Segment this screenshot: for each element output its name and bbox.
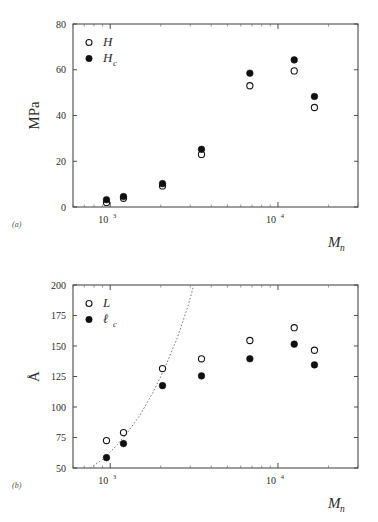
y-tick-label: 20 (56, 156, 66, 167)
data-point-L (120, 430, 126, 436)
data-point-lc (247, 356, 254, 363)
legend-label-subscript: c (113, 58, 117, 68)
y-axis-title: MPa (26, 101, 42, 130)
panel-a: 020406080103104MPaMnHHc(a) (12, 19, 358, 254)
x-axis-title: Mn (327, 495, 345, 514)
data-point-lc (291, 341, 298, 348)
x-tick-label: 104 (266, 212, 285, 225)
data-point-lc (159, 382, 166, 389)
data-point-Hc (291, 57, 298, 64)
plot-frame (73, 24, 358, 207)
legend-label: ℓ (103, 311, 109, 326)
data-point-H (291, 68, 297, 74)
series-lc (103, 341, 318, 461)
legend-label-subscript: c (113, 319, 117, 329)
data-point-H (247, 83, 253, 89)
legend-marker-H (86, 40, 92, 46)
y-tick-label: 125 (51, 371, 66, 382)
data-point-L (159, 365, 165, 371)
data-point-Hc (311, 93, 318, 100)
y-tick-label: 175 (51, 310, 66, 321)
y-tick-label: 60 (56, 64, 66, 75)
x-tick-exponent: 4 (281, 473, 285, 480)
x-axis-title: Mn (327, 234, 345, 253)
y-tick-label: 40 (56, 110, 66, 121)
y-axis-title: Å (26, 371, 42, 382)
data-point-Hc (247, 70, 254, 77)
legend-marker-H (86, 55, 92, 61)
data-point-L (247, 337, 253, 343)
data-point-lc (311, 362, 318, 369)
series-H (103, 68, 317, 206)
data-point-Hc (198, 146, 205, 153)
data-point-lc (103, 454, 110, 461)
legend-marker-ℓ (86, 316, 92, 322)
data-point-L (291, 325, 297, 331)
x-tick-base: 10 (98, 214, 108, 225)
x-tick-exponent: 3 (113, 212, 116, 219)
data-point-H (311, 104, 317, 110)
plot-frame (73, 285, 358, 468)
x-tick-exponent: 4 (281, 212, 285, 219)
x-tick-base: 10 (266, 475, 276, 486)
y-tick-label: 100 (51, 402, 66, 413)
y-tick-label: 150 (51, 341, 66, 352)
x-tick-label: 103 (98, 473, 116, 486)
x-axis-title-subscript: n (340, 504, 345, 514)
series-Hc (103, 57, 318, 203)
data-point-L (103, 437, 109, 443)
figure-container: 020406080103104MPaMnHHc(a)50751001251501… (0, 0, 378, 522)
data-point-lc (120, 440, 127, 447)
x-tick-exponent: 3 (113, 473, 116, 480)
x-tick-label: 104 (266, 473, 285, 486)
y-tick-label: 80 (56, 19, 66, 30)
x-tick-label: 103 (98, 212, 116, 225)
y-tick-label: 0 (61, 202, 66, 213)
y-tick-label: 50 (56, 463, 66, 474)
data-point-L (198, 356, 204, 362)
data-point-L (311, 347, 317, 353)
data-point-lc (198, 373, 205, 380)
panel-label-b: (b) (12, 481, 22, 490)
legend-label: H (102, 50, 113, 65)
panel-b: 5075100125150175200103104ÅMnLℓc(b) (12, 280, 358, 515)
data-point-Hc (120, 193, 127, 200)
y-tick-label: 75 (56, 432, 66, 443)
figure-svg: 020406080103104MPaMnHHc(a)50751001251501… (0, 0, 378, 522)
series-L (103, 325, 317, 444)
legend-label: L (102, 295, 110, 310)
y-tick-label: 200 (51, 280, 66, 291)
panel-label-a: (a) (12, 220, 22, 229)
legend-label: H (102, 34, 113, 49)
x-tick-base: 10 (266, 214, 276, 225)
x-axis-title-subscript: n (340, 243, 345, 253)
x-tick-base: 10 (98, 475, 108, 486)
data-point-Hc (159, 180, 166, 187)
legend-marker-L (86, 301, 92, 307)
data-point-Hc (103, 196, 110, 203)
